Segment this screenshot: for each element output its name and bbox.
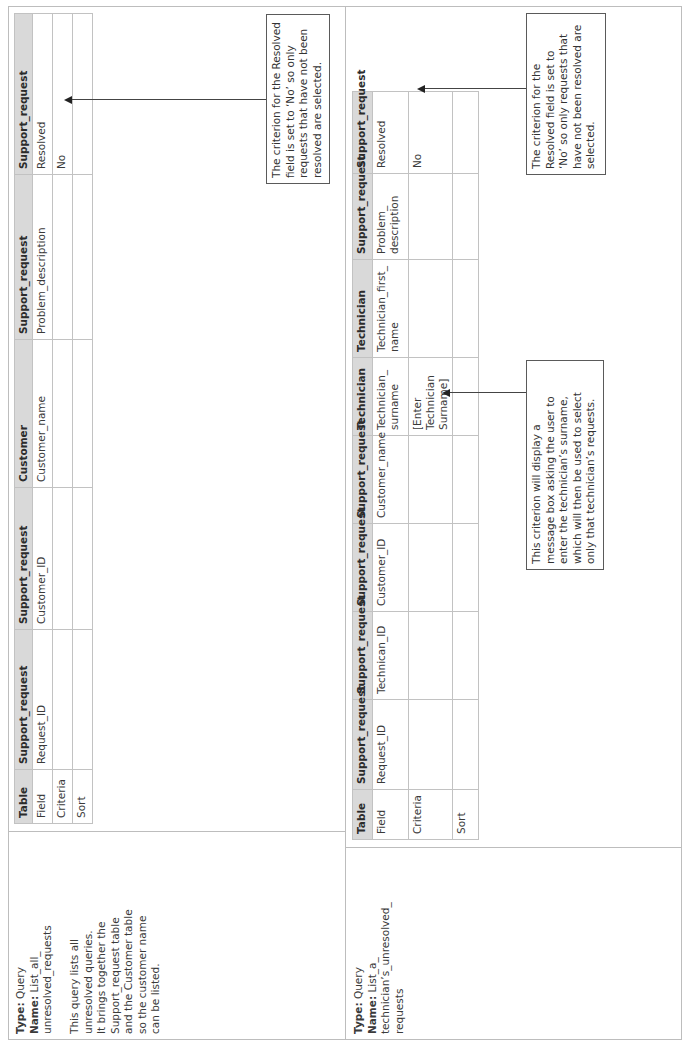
callout-line: resolved are selected.	[311, 20, 325, 178]
sort-cell	[73, 630, 93, 770]
sort-cell	[453, 92, 479, 174]
field-cell: Resolved	[373, 92, 409, 174]
criteria-cell	[53, 175, 73, 340]
query1-design-grid: Table Support_request Support_request Cu…	[14, 13, 93, 824]
callout-resolved-criterion-1: The criterion for the Resolved field is …	[266, 14, 330, 184]
sort-cell	[73, 488, 93, 630]
criteria-cell: No	[53, 14, 73, 175]
callout2-arrow-line	[448, 392, 526, 393]
query1-description: Type: Query Name: List_all_ unresolved_r…	[14, 838, 163, 1034]
type-value: Query	[14, 967, 26, 999]
sort-cell	[453, 612, 479, 700]
description-line: unresolved queries.	[82, 838, 96, 1034]
field-text: Problem_	[375, 179, 388, 254]
row-label: Criteria	[53, 770, 73, 824]
field-cell: Request_ID	[373, 700, 409, 790]
table-cell: Support_request	[15, 175, 33, 340]
callout-resolved-criterion-2: The criterion for the Resolved field is …	[526, 13, 606, 175]
type-label: Type:	[352, 1002, 364, 1034]
table-cell: Support_request	[353, 612, 373, 700]
description-line: can be listed.	[149, 838, 163, 1034]
field-text: description	[388, 179, 401, 254]
field-cell: Resolved	[33, 14, 53, 175]
table-row-criteria: Criteria No	[53, 14, 73, 824]
table-cell: Support_request	[15, 630, 33, 770]
criteria-cell	[409, 524, 453, 612]
callout-line: selected.	[584, 19, 598, 169]
callout-line: The criterion for the Resolved	[270, 20, 284, 178]
query2-design-grid: Table Support_request Support_request Su…	[352, 91, 479, 840]
row-label: Table	[353, 790, 373, 840]
arrowhead-icon	[442, 389, 450, 397]
field-cell: Problem_description	[373, 174, 409, 260]
name-label: Name:	[366, 996, 378, 1034]
table-cell: Customer	[15, 340, 33, 488]
callout-line: only that technician’s requests.	[584, 366, 598, 564]
field-text: name	[388, 265, 401, 352]
description-line: and the Customer table	[122, 838, 136, 1034]
callout-line: The criterion for the	[530, 19, 544, 169]
row-label: Field	[373, 790, 409, 840]
row-label: Sort	[73, 770, 93, 824]
criteria-cell	[53, 488, 73, 630]
criteria-cell	[53, 340, 73, 488]
callout-line: enter the technician’s surname,	[557, 366, 571, 564]
callout-line: message box asking the user to	[544, 366, 558, 564]
callout-line: field is set to ‘No’ so only	[284, 20, 298, 178]
table-cell: Support_request	[353, 174, 373, 260]
field-cell: Customer_name	[373, 436, 409, 524]
callout-line: This criterion will display a	[530, 366, 544, 564]
callout-line: ‘No’ so only requests that	[557, 19, 571, 169]
sort-cell	[73, 340, 93, 488]
criteria-text: [Enter Technician	[411, 363, 437, 430]
description-line: This query lists all	[68, 838, 82, 1034]
field-text: Request_ID	[375, 705, 388, 784]
table-cell: Support_request	[15, 14, 33, 175]
rotated-document-page: Type: Query Name: List_all_ unresolved_r…	[0, 0, 686, 1054]
field-text: Technican_ID	[375, 617, 388, 694]
table-row-sort: Sort	[73, 14, 93, 824]
field-cell: Technican_ID	[373, 612, 409, 700]
callout1-arrow-line	[70, 99, 266, 100]
field-text: Technician_first_	[375, 265, 388, 352]
query1-description-divider	[8, 831, 345, 832]
row-label: Table	[15, 770, 33, 824]
row-label: Field	[33, 770, 53, 824]
criteria-cell	[409, 260, 453, 358]
callout-line: requests that have not been	[297, 20, 311, 178]
row-label: Criteria	[409, 790, 453, 840]
arrowhead-icon	[64, 96, 72, 104]
table-row-field: Field Request_ID Technican_ID Customer_I…	[373, 92, 409, 840]
sort-cell	[453, 358, 479, 436]
name-value-cont: technician’s_unresolved_	[379, 854, 393, 1034]
query-section-divider	[345, 6, 346, 1040]
criteria-cell	[409, 174, 453, 260]
field-cell: Problem_description	[33, 175, 53, 340]
criteria-cell: No	[409, 92, 453, 174]
table-cell: Support_request	[353, 436, 373, 524]
table-cell: Support_request	[15, 488, 33, 630]
description-line: so the customer name	[136, 838, 150, 1034]
name-value: List_all_	[28, 951, 40, 992]
table-cell: Support_request	[353, 92, 373, 174]
row-label: Sort	[453, 790, 479, 840]
table-row-table: Table Support_request Support_request Cu…	[15, 14, 33, 824]
table-row-criteria: Criteria [Enter TechnicianSurname] No	[409, 92, 453, 840]
field-text: Customer_ID	[375, 529, 388, 606]
table-row-table: Table Support_request Support_request Su…	[353, 92, 373, 840]
sort-cell	[453, 260, 479, 358]
callout-line: which will then be used to select	[571, 366, 585, 564]
criteria-cell	[409, 700, 453, 790]
table-row-sort: Sort	[453, 92, 479, 840]
query2-description-divider	[345, 847, 682, 848]
table-row-field: Field Request_ID Customer_ID Customer_na…	[33, 14, 53, 824]
callout3-arrow-line	[423, 88, 526, 89]
arrowhead-icon	[417, 85, 425, 93]
field-cell: Technician_surname	[373, 358, 409, 436]
description-line: Support_request table	[109, 838, 123, 1034]
field-cell: Request_ID	[33, 630, 53, 770]
field-cell: Customer_name	[33, 340, 53, 488]
field-text: Resolved	[375, 97, 388, 168]
field-text: surname	[388, 363, 401, 430]
table-cell: Support_request	[353, 700, 373, 790]
